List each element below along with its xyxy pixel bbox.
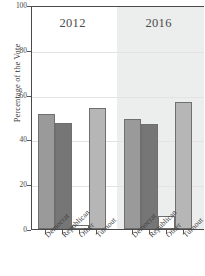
bar-2012-democrat — [38, 114, 55, 229]
y-tick-label-20: 20 — [5, 181, 27, 189]
bar-chart-figure: Percentage of the Vote 100 80 60 40 20 0… — [0, 0, 205, 276]
bar-2016-turnout — [175, 102, 192, 229]
panel-caption-2016: 2016 — [146, 16, 172, 31]
x-axis-tick-labels: Democrat Republican Other Turnout Democr… — [31, 233, 204, 276]
y-tick-label-0: 0 — [5, 226, 27, 234]
bar-2012-turnout — [89, 108, 106, 229]
y-axis-tick-labels: 100 80 60 40 20 0 — [2, 0, 27, 276]
gridline-80 — [32, 52, 204, 53]
bar-2016-democrat — [124, 119, 141, 229]
y-tick-label-60: 60 — [5, 92, 27, 100]
plot-area: 2012 2016 — [31, 6, 204, 230]
y-tick-label-80: 80 — [5, 47, 27, 55]
gridline-60 — [32, 97, 204, 98]
panel-caption-2012: 2012 — [60, 16, 86, 31]
y-tick-label-40: 40 — [5, 136, 27, 144]
y-tick-label-100: 100 — [5, 2, 27, 10]
